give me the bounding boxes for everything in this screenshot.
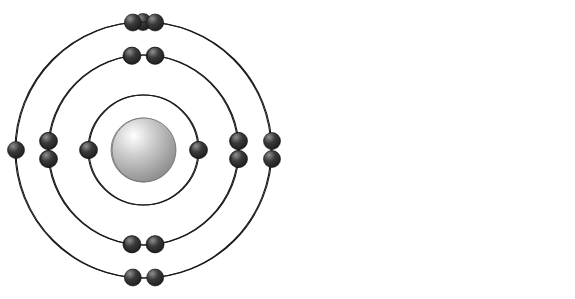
electron bbox=[41, 151, 58, 168]
diagram-canvas bbox=[0, 0, 575, 299]
electron bbox=[231, 133, 248, 150]
electron bbox=[191, 142, 208, 159]
electron bbox=[41, 133, 58, 150]
electron bbox=[124, 236, 141, 253]
electron bbox=[147, 236, 164, 253]
electron bbox=[147, 14, 164, 31]
electron bbox=[124, 47, 141, 64]
electron bbox=[124, 14, 141, 31]
chlorine-atom bbox=[0, 0, 287, 299]
electron bbox=[264, 151, 281, 168]
electron bbox=[231, 151, 248, 168]
electron bbox=[8, 142, 25, 159]
electron bbox=[124, 269, 141, 286]
electron bbox=[264, 133, 281, 150]
nucleus-sphere bbox=[112, 118, 176, 182]
electron bbox=[147, 269, 164, 286]
electron bbox=[147, 47, 164, 64]
electron bbox=[81, 142, 98, 159]
nucleus bbox=[112, 118, 176, 182]
